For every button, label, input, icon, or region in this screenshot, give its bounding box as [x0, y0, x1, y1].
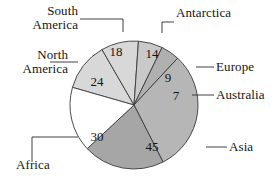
pie-value-europe: 9	[165, 70, 172, 85]
pie-value-north-america: 24	[91, 74, 105, 89]
pie-label-australia: Australia	[216, 88, 275, 102]
pie-value-africa: 30	[91, 129, 104, 144]
pie-value-antarctica: 14	[146, 46, 160, 61]
leader-line-south-america	[80, 19, 123, 32]
pie-label-asia: Asia	[229, 140, 271, 154]
pie-label-south-america: South America	[14, 4, 78, 32]
pie-chart-figure: 181497453024 South America Antarctica Eu…	[0, 0, 275, 194]
pie-label-north-america: North America	[2, 48, 68, 76]
pie-label-africa: Africa	[16, 158, 70, 172]
leader-line-antarctica	[162, 22, 174, 33]
pie-value-asia: 45	[146, 139, 159, 154]
pie-label-antarctica: Antarctica	[176, 6, 258, 20]
pie-value-australia: 7	[173, 88, 180, 103]
pie-slice-group	[70, 41, 198, 169]
pie-label-europe: Europe	[216, 60, 274, 74]
pie-value-south-america: 18	[110, 44, 123, 59]
